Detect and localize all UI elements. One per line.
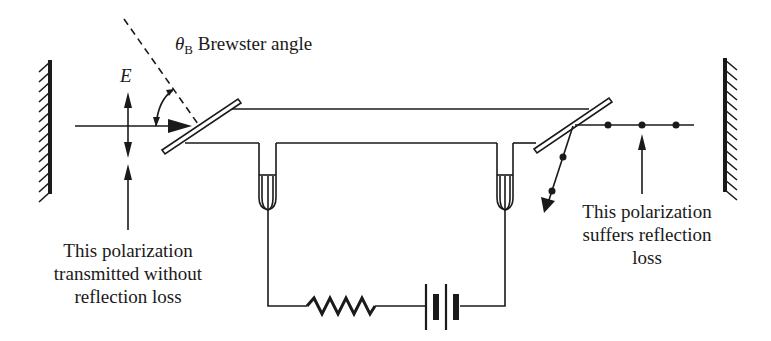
discharge-tube bbox=[185, 109, 589, 143]
beam-arrowhead-icon bbox=[168, 119, 192, 133]
left-electrode bbox=[259, 143, 276, 210]
brewster-angle-label: θB Brewster angle bbox=[175, 32, 312, 61]
right-caption-line-1: This polarization bbox=[567, 200, 727, 223]
polarization-dot-icon bbox=[605, 122, 612, 129]
output-beam bbox=[575, 122, 694, 129]
pointer-arrow-icon bbox=[124, 164, 132, 180]
field-symbol-label: E bbox=[120, 64, 132, 87]
theta-symbol: θ bbox=[175, 33, 184, 54]
polarization-dot-icon bbox=[560, 154, 567, 161]
left-caption: This polarization transmitted without re… bbox=[28, 239, 228, 308]
e-field-arrow bbox=[124, 92, 132, 158]
left-caption-line-1: This polarization bbox=[28, 239, 228, 262]
incoming-beam bbox=[75, 119, 192, 133]
left-mirror bbox=[39, 60, 50, 202]
left-caption-pointer bbox=[124, 164, 132, 230]
polarization-dot-icon bbox=[639, 122, 646, 129]
pointer-arrow-icon bbox=[638, 134, 646, 150]
brewster-angle-text: Brewster angle bbox=[198, 33, 312, 54]
battery bbox=[426, 284, 459, 330]
arrow-down-icon bbox=[124, 142, 132, 158]
left-caption-line-2: transmitted without bbox=[28, 262, 228, 285]
right-caption-pointer bbox=[638, 134, 646, 194]
resistor bbox=[307, 298, 375, 314]
right-caption: This polarization suffers reflection los… bbox=[567, 200, 727, 269]
polarization-dot-icon bbox=[549, 188, 556, 195]
reflected-arrowhead-icon bbox=[541, 197, 555, 213]
right-caption-line-2: suffers reflection bbox=[567, 223, 727, 246]
right-electrode bbox=[497, 143, 513, 210]
polarization-dot-icon bbox=[673, 122, 680, 129]
right-caption-line-3: loss bbox=[567, 246, 727, 269]
arrow-up-icon bbox=[124, 92, 132, 108]
circuit-wires bbox=[268, 210, 505, 306]
theta-subscript: B bbox=[184, 42, 193, 57]
right-mirror bbox=[725, 58, 737, 200]
left-caption-line-3: reflection loss bbox=[28, 285, 228, 308]
